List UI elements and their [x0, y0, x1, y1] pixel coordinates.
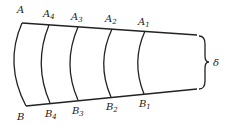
label-A: A	[16, 4, 24, 15]
arc-A4B4	[41, 25, 50, 103]
arc-AB	[14, 23, 26, 106]
label-A3: A3	[70, 11, 83, 24]
bottom-labels: B B4 B3 B2 B1	[16, 98, 151, 122]
arc-A3B3	[70, 27, 78, 100]
label-A1: A1	[137, 16, 150, 29]
arch-segments-diagram: δ A A4 A3 A2 A1 B B4 B3 B2 B1	[0, 0, 230, 125]
label-B1: B1	[138, 98, 151, 111]
top-labels: A A4 A3 A2 A1	[16, 4, 150, 29]
delta-label: δ	[213, 57, 219, 68]
label-B3: B3	[71, 105, 84, 118]
label-B: B	[16, 111, 24, 122]
label-A2: A2	[104, 13, 117, 26]
delta-brace	[199, 36, 209, 89]
label-A4: A4	[42, 8, 55, 21]
label-B2: B2	[105, 101, 118, 114]
label-B4: B4	[44, 108, 57, 121]
arc-A2B2	[104, 29, 112, 97]
arc-A1B1	[138, 31, 145, 94]
